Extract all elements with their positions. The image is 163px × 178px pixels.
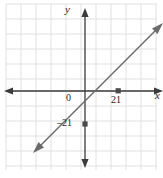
x-axis-label: x bbox=[155, 90, 160, 101]
origin-label: 0 bbox=[66, 93, 71, 103]
coordinate-plane bbox=[0, 0, 163, 178]
x-intercept-label: 21 bbox=[111, 95, 121, 105]
point-marker-x-intercept bbox=[116, 88, 121, 93]
y-intercept-label: –21 bbox=[57, 118, 72, 128]
plot-background bbox=[6, 4, 157, 170]
point-marker-y-intercept bbox=[82, 121, 87, 126]
graph-figure: y x 0 21 –21 bbox=[0, 0, 163, 178]
y-axis-label: y bbox=[65, 4, 70, 15]
